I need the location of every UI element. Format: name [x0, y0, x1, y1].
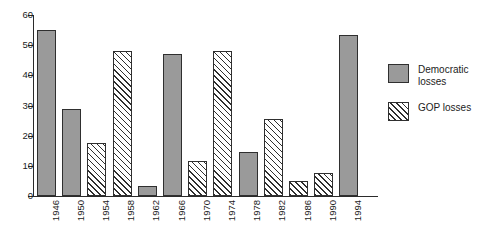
x-label-1958: 1958: [126, 200, 136, 221]
bar-1958: [113, 51, 132, 196]
chart-legend: Democratic losses GOP losses: [388, 64, 483, 140]
legend-swatch-democratic-icon: [388, 64, 409, 83]
plot-area: 6050403020100 19461950195419581962196619…: [0, 0, 400, 245]
bar-chart: 6050403020100 19461950195419581962196619…: [0, 0, 483, 245]
legend-label-gop: GOP losses: [418, 102, 483, 114]
y-tick-60: 60: [0, 15, 33, 16]
legend-item-democratic-losses: Democratic losses: [388, 64, 483, 86]
y-tick-label: 0: [9, 191, 33, 201]
y-tick-label: 20: [9, 131, 33, 141]
x-label-1994: 1994: [353, 200, 363, 221]
y-tick-30: 30: [0, 106, 33, 107]
bar-1966: [163, 54, 182, 196]
y-tick-40: 40: [0, 75, 33, 76]
y-tick-label: 60: [9, 10, 33, 20]
y-tick-label: 10: [9, 161, 33, 171]
y-tick-10: 10: [0, 166, 33, 167]
y-tick-label: 50: [9, 40, 33, 50]
bar-1954: [87, 143, 106, 196]
bar-1982: [264, 119, 283, 196]
x-label-1974: 1974: [227, 200, 237, 221]
y-tick-label: 40: [9, 70, 33, 80]
legend-swatch-gop-icon: [388, 102, 409, 121]
x-label-1970: 1970: [202, 200, 212, 221]
x-axis-line: [33, 196, 378, 197]
bar-1962: [138, 186, 157, 196]
x-label-1954: 1954: [101, 200, 111, 221]
bar-1974: [213, 51, 232, 196]
x-label-1946: 1946: [51, 200, 61, 221]
x-label-1990: 1990: [328, 200, 338, 221]
y-tick-0: 0: [0, 196, 33, 197]
bar-1946: [37, 30, 56, 196]
x-label-1982: 1982: [277, 200, 287, 221]
x-label-1986: 1986: [303, 200, 313, 221]
bar-1986: [289, 181, 308, 196]
bar-1994: [339, 35, 358, 196]
legend-item-gop-losses: GOP losses: [388, 102, 483, 124]
bar-series-group: [34, 15, 379, 196]
bar-1970: [188, 161, 207, 196]
y-tick-50: 50: [0, 45, 33, 46]
x-label-1966: 1966: [177, 200, 187, 221]
x-label-1950: 1950: [76, 200, 86, 221]
y-tick-label: 30: [9, 101, 33, 111]
x-label-1978: 1978: [252, 200, 262, 221]
legend-label-democratic: Democratic losses: [418, 64, 483, 87]
bar-1978: [239, 152, 258, 196]
x-label-1962: 1962: [151, 200, 161, 221]
bar-1950: [62, 109, 81, 196]
bar-1990: [314, 173, 333, 196]
y-tick-20: 20: [0, 136, 33, 137]
